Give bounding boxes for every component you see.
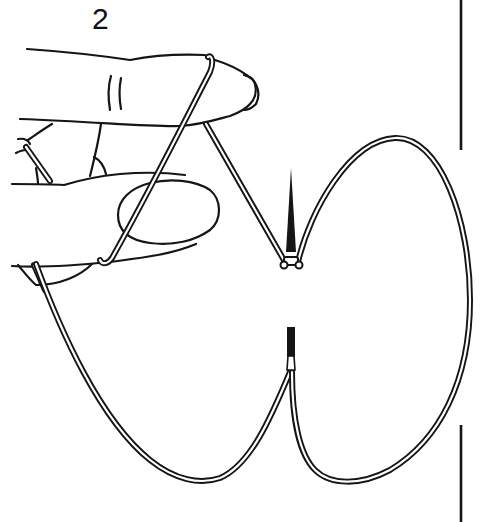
needle-lower <box>287 327 295 370</box>
thumb <box>12 180 219 285</box>
index-finger <box>20 49 258 126</box>
hand-thread-illustration <box>0 0 484 522</box>
illustration-canvas: 2 <box>0 0 484 522</box>
thread-loop-right <box>292 138 470 482</box>
thread-loop-left <box>36 264 290 481</box>
